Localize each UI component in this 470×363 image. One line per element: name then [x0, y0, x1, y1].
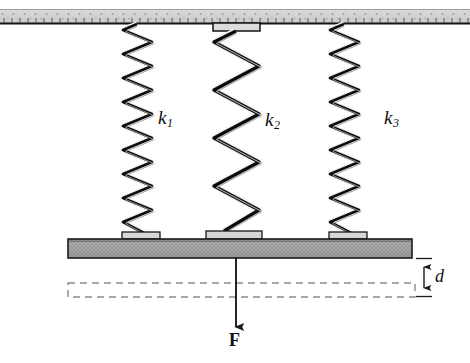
- spring-1-label: k1: [158, 108, 173, 129]
- spring-system-diagram: k1 k2 k3 d F: [0, 0, 470, 363]
- spring-2: [206, 23, 262, 239]
- fixed-support-ceiling: [0, 9, 470, 24]
- force-label: F: [229, 331, 240, 349]
- rigid-bar: [68, 239, 412, 258]
- spring-3-base-plate: [329, 232, 367, 239]
- spring-1: [122, 24, 160, 239]
- spring-3: [329, 24, 367, 239]
- dimension-d: [416, 259, 432, 297]
- spring-2-top-plate: [213, 23, 260, 31]
- spring-2-label: k2: [265, 110, 280, 131]
- dimension-d-label: d: [435, 267, 444, 285]
- spring-1-base-plate: [122, 232, 160, 239]
- undeformed-reference-outline: [68, 283, 415, 297]
- spring-2-base-plate: [206, 231, 262, 239]
- spring-3-label: k3: [384, 108, 399, 129]
- diagram-canvas: [0, 0, 470, 363]
